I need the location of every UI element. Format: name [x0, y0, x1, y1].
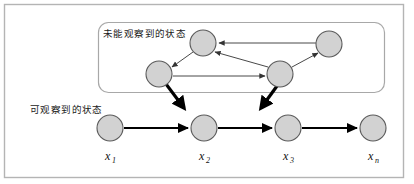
node-label-x3: x — [282, 149, 289, 163]
hidden-node-top-left — [190, 30, 216, 56]
node-label-x2: x — [198, 149, 205, 163]
hmm-diagram: 未能观察到的状态 可观察到的状态 — [0, 0, 414, 184]
node-label-xn: x — [367, 149, 374, 163]
node-sublabel-x3: 3 — [289, 156, 294, 165]
node-sublabel-x1: 1 — [112, 156, 116, 165]
diagram-canvas: 未能观察到的状态 可观察到的状态 — [0, 0, 414, 184]
hidden-node-top-right — [316, 31, 342, 57]
hidden-state-label: 未能观察到的状态 — [103, 28, 186, 39]
observed-node-xn — [360, 115, 386, 141]
hidden-node-mid-left — [146, 61, 172, 87]
hidden-node-mid-right — [267, 61, 293, 87]
node-label-x1: x — [104, 149, 111, 163]
observed-node-x2 — [191, 115, 217, 141]
observed-node-x1 — [97, 115, 123, 141]
observed-node-x3 — [275, 115, 301, 141]
node-sublabel-xn: n — [375, 156, 379, 165]
node-sublabel-x2: 2 — [206, 156, 210, 165]
observed-state-label: 可观察到的状态 — [30, 104, 103, 115]
